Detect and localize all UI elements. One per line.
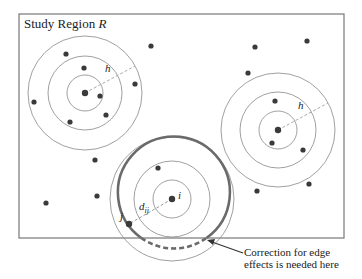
event-points: [31, 38, 311, 227]
label-dij: dij: [139, 200, 149, 215]
note-line-2: effects is needed here: [244, 258, 339, 270]
edge-correction-note: Correction for edge effects is needed he…: [244, 246, 339, 270]
arrow-head-icon: [207, 239, 215, 245]
thick-circle-inside: [118, 136, 230, 238]
edge-correction-dashed-arc: [141, 238, 206, 248]
annotation-arrow: [212, 242, 243, 253]
label-h-right: h: [298, 99, 304, 111]
diagram-title: Study Region R: [24, 16, 106, 32]
ripleys-k-diagram: [0, 0, 362, 279]
note-line-1: Correction for edge: [244, 246, 339, 258]
distance-dij: [129, 199, 172, 224]
label-h-left: h: [105, 62, 111, 74]
label-j: j: [120, 210, 123, 222]
label-i: i: [178, 189, 181, 201]
